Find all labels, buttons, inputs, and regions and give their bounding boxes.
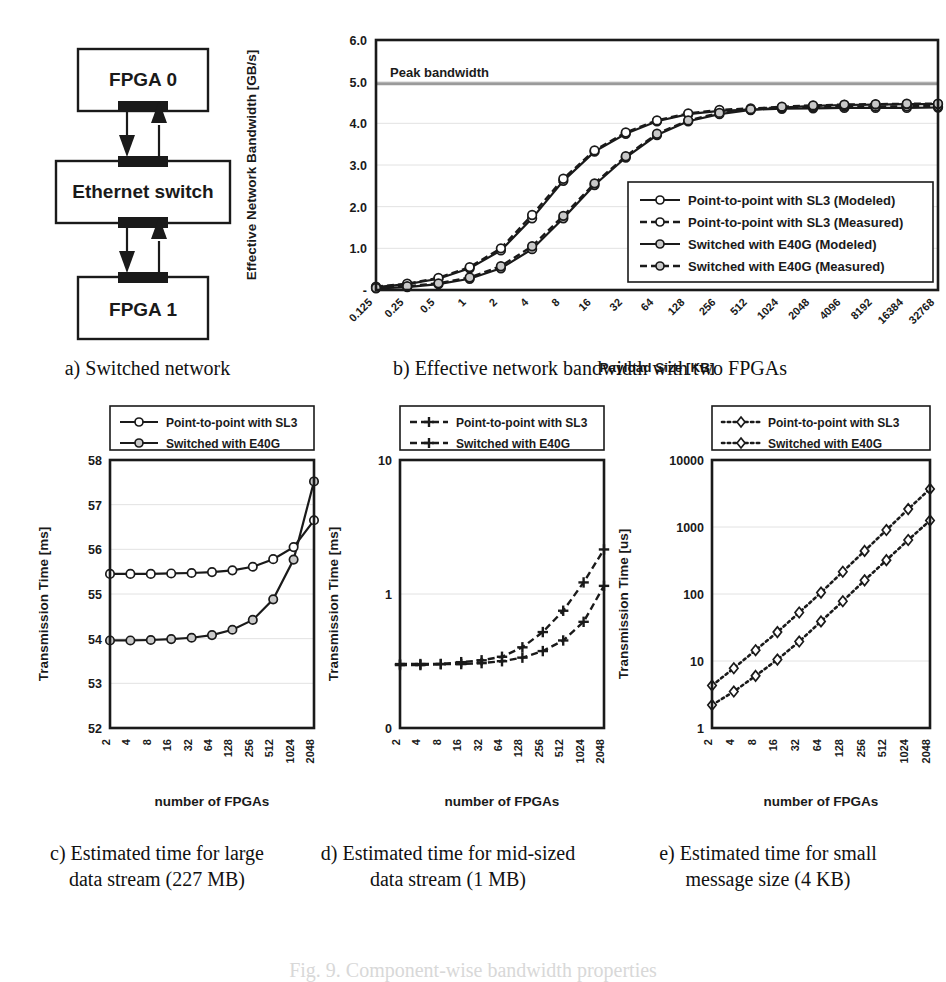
- svg-text:2: 2: [702, 739, 714, 745]
- svg-text:32: 32: [607, 296, 624, 313]
- subcaption-c-line1: c) Estimated time for large: [22, 840, 292, 866]
- panel-e-chart-svg: 110100100010000 248163264128256512102420…: [608, 398, 938, 828]
- legend: Point-to-point with SL3Switched with E40…: [400, 406, 604, 451]
- svg-text:128: 128: [222, 739, 234, 757]
- svg-text:53: 53: [88, 677, 102, 691]
- link-switch-to-fpga1-down-arrow: [119, 228, 135, 273]
- gridlines: [110, 505, 314, 684]
- figure-bottom-caption: Fig. 9. Component-wise bandwidth propert…: [0, 959, 946, 982]
- svg-text:Switched with E40G: Switched with E40G: [456, 437, 570, 451]
- svg-text:16: 16: [451, 739, 463, 751]
- svg-text:16: 16: [161, 739, 173, 751]
- subcaption-d-line1: d) Estimated time for mid-sized: [298, 840, 598, 866]
- svg-text:Point-to-point with SL3: Point-to-point with SL3: [456, 416, 588, 430]
- svg-text:1024: 1024: [284, 738, 296, 763]
- svg-text:16384: 16384: [875, 295, 906, 326]
- svg-text:5.0: 5.0: [350, 76, 367, 90]
- y-axis-tick-labels: 110100100010000: [669, 454, 704, 736]
- y-axis-title: Effective Network Bandwidth [GB/s]: [244, 50, 259, 280]
- svg-text:0.25: 0.25: [382, 296, 406, 320]
- network-diagram-svg: FPGA 0 Ethernet switch FPGA 1: [52, 45, 242, 345]
- port-switch-top: [118, 156, 168, 167]
- svg-text:100: 100: [683, 588, 704, 602]
- svg-text:256: 256: [696, 296, 717, 317]
- panel-b-effective-bandwidth: Peak bandwidth -1.02.03.04.05.06.0 0.125…: [238, 22, 944, 352]
- svg-text:8: 8: [549, 296, 562, 309]
- x-axis-title: number of FPGAs: [764, 794, 879, 809]
- svg-text:4: 4: [518, 295, 531, 308]
- panel-b-chart-svg: Peak bandwidth -1.02.03.04.05.06.0 0.125…: [238, 22, 944, 352]
- svg-text:256: 256: [533, 739, 545, 757]
- svg-text:4: 4: [120, 738, 132, 745]
- svg-text:4: 4: [410, 738, 422, 745]
- peak-bandwidth-label: Peak bandwidth: [390, 65, 489, 80]
- svg-text:128: 128: [833, 739, 845, 757]
- svg-text:55: 55: [88, 588, 102, 602]
- node-fpga0-label: FPGA 0: [109, 69, 177, 90]
- svg-text:32: 32: [472, 739, 484, 751]
- svg-text:56: 56: [88, 543, 102, 557]
- subcaption-a: a) Switched network: [30, 355, 265, 381]
- svg-text:Switched with E40G: Switched with E40G: [768, 437, 882, 451]
- svg-text:0.125: 0.125: [346, 296, 374, 324]
- svg-text:512: 512: [876, 739, 888, 757]
- x-axis-title: number of FPGAs: [445, 794, 560, 809]
- panel-c-large-data-stream: 52535455565758 2481632641282565121024204…: [28, 398, 320, 828]
- svg-text:128: 128: [512, 739, 524, 757]
- svg-text:Point-to-point with SL3: Point-to-point with SL3: [166, 416, 298, 430]
- y-axis-tick-labels: -1.02.03.04.05.06.0: [350, 34, 367, 298]
- y-axis-title: Transmission Time [ms]: [326, 527, 341, 681]
- svg-text:Point-to-point with SL3 (Measu: Point-to-point with SL3 (Measured): [688, 215, 903, 230]
- svg-text:8: 8: [431, 739, 443, 745]
- svg-text:57: 57: [88, 499, 102, 513]
- data-series-group: [106, 477, 318, 644]
- svg-text:54: 54: [88, 633, 102, 647]
- svg-text:10000: 10000: [669, 454, 704, 468]
- node-fpga1-label: FPGA 1: [109, 299, 177, 320]
- svg-text:1000: 1000: [676, 521, 704, 535]
- subcaption-d-line2: data stream (1 MB): [298, 866, 598, 892]
- svg-text:256: 256: [855, 739, 867, 757]
- svg-text:512: 512: [728, 296, 749, 317]
- subcaption-c-line2: data stream (227 MB): [22, 866, 292, 892]
- svg-text:32: 32: [789, 739, 801, 751]
- port-fpga1: [118, 272, 168, 283]
- svg-text:512: 512: [553, 739, 565, 757]
- legend: Point-to-point with SL3Switched with E40…: [110, 406, 314, 451]
- svg-text:6.0: 6.0: [350, 34, 367, 48]
- x-axis-tick-labels: 24816326412825651210242048: [390, 738, 606, 763]
- subcaption-c: c) Estimated time for large data stream …: [22, 840, 292, 892]
- svg-text:4: 4: [724, 738, 736, 745]
- y-axis-title: Transmission Time [us]: [616, 529, 631, 680]
- panel-c-chart-svg: 52535455565758 2481632641282565121024204…: [28, 398, 320, 828]
- x-axis-title: number of FPGAs: [155, 794, 270, 809]
- x-axis-tick-labels: 24816326412825651210242048: [100, 738, 316, 763]
- svg-text:16: 16: [576, 296, 593, 313]
- svg-text:1: 1: [697, 722, 704, 736]
- svg-text:1024: 1024: [898, 738, 910, 763]
- subcaption-d: d) Estimated time for mid-sized data str…: [298, 840, 598, 892]
- svg-text:4096: 4096: [817, 296, 843, 322]
- svg-text:2048: 2048: [304, 739, 316, 763]
- svg-text:2048: 2048: [594, 739, 606, 763]
- svg-text:64: 64: [811, 738, 823, 751]
- svg-text:2048: 2048: [786, 296, 812, 322]
- y-axis-title: Transmission Time [ms]: [36, 527, 51, 681]
- svg-text:32: 32: [182, 739, 194, 751]
- svg-text:32768: 32768: [906, 296, 936, 326]
- svg-text:1: 1: [455, 296, 468, 309]
- svg-text:3.0: 3.0: [350, 159, 367, 173]
- svg-text:512: 512: [263, 739, 275, 757]
- svg-text:2048: 2048: [920, 739, 932, 763]
- y-axis-tick-labels: 0110: [378, 454, 392, 736]
- legend: Point-to-point with SL3 (Modeled)Point-t…: [628, 182, 933, 282]
- svg-text:52: 52: [88, 722, 102, 736]
- svg-text:Switched with E40G (Modeled): Switched with E40G (Modeled): [688, 237, 877, 252]
- svg-text:64: 64: [202, 738, 214, 751]
- svg-text:4.0: 4.0: [350, 117, 367, 131]
- svg-text:Switched with E40G: Switched with E40G: [166, 437, 280, 451]
- svg-text:1024: 1024: [574, 738, 586, 763]
- subcaption-e-line2: message size (4 KB): [608, 866, 928, 892]
- panel-a-switched-network: FPGA 0 Ethernet switch FPGA 1: [52, 45, 242, 345]
- svg-text:10: 10: [690, 655, 704, 669]
